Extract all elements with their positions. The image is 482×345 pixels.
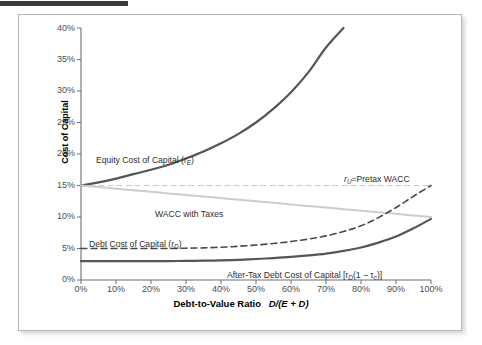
pretax-label-after: =Pretax WACC [352, 174, 410, 184]
x-axis-title: Debt-to-Value Ratio D/(E + D) [19, 298, 463, 309]
debt-curve-label: Debt Cost of Capital (rD) [89, 239, 182, 249]
ytick-label: 40% [41, 23, 75, 33]
aftertax-label-sub: D [348, 274, 353, 281]
wacc-with-taxes-label: WACC with Taxes [155, 209, 223, 219]
xtick-label: 0% [61, 284, 101, 294]
top-dark-rule [0, 1, 128, 6]
debt-label-after: ) [179, 239, 182, 249]
plot-area: 40% 35% 30% 25% 20% 15% 10% 5% 0% 0% 10%… [19, 15, 463, 332]
ytick-label: 35% [41, 54, 75, 64]
xtick-label: 20% [131, 284, 171, 294]
equity-curve-label: Equity Cost of Capital (rE) [96, 155, 194, 165]
aftertax-label-text: After-Tax Debt Cost of Capital [r [227, 270, 348, 280]
equity-label-text: Equity Cost of Capital (r [96, 155, 187, 165]
figure-panel: 40% 35% 30% 25% 20% 15% 10% 5% 0% 0% 10%… [18, 14, 462, 331]
equity-label-after: ) [191, 155, 194, 165]
equity-label-sub: E [187, 159, 191, 166]
debt-label-sub: D [174, 243, 179, 250]
xtick-label: 100% [411, 284, 451, 294]
aftertax-label-sub2: c [374, 274, 377, 281]
xtick-label: 80% [341, 284, 381, 294]
xtick-label: 50% [236, 284, 276, 294]
x-axis-title-formula: D/(E + D) [269, 298, 309, 309]
xtick-label: 10% [96, 284, 136, 294]
xtick-label: 70% [306, 284, 346, 294]
debt-label-text: Debt Cost of Capital (r [89, 239, 174, 249]
xtick-label: 30% [166, 284, 206, 294]
xtick-label: 60% [271, 284, 311, 294]
aftertax-label-after: (1 − τ [353, 270, 374, 280]
aftertax-debt-curve-label: After-Tax Debt Cost of Capital [rD(1 − τ… [227, 270, 382, 280]
figure-root: 40% 35% 30% 25% 20% 15% 10% 5% 0% 0% 10%… [0, 0, 482, 345]
ytick-label: 10% [41, 211, 75, 221]
series-path-2 [81, 186, 431, 218]
aftertax-label-after2: )] [377, 270, 382, 280]
ytick-label: 5% [41, 243, 75, 253]
xtick-label: 90% [376, 284, 416, 294]
ytick-label: 0% [41, 274, 75, 284]
pretax-wacc-label: rU=Pretax WACC [344, 174, 410, 184]
x-axis-title-main: Debt-to-Value Ratio [173, 298, 261, 309]
pretax-label-sub: U [347, 178, 352, 185]
xtick-label: 40% [201, 284, 241, 294]
y-axis-title: Cost of Capital [60, 72, 70, 192]
